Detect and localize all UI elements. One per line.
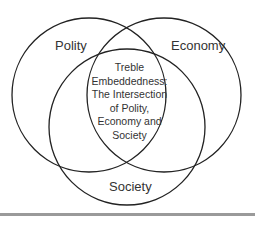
intersection-line: Economy and <box>82 115 177 129</box>
intersection-line: Society <box>82 129 177 143</box>
bottom-rule <box>0 213 255 216</box>
intersection-line: Treble <box>82 61 177 75</box>
economy-label: Economy <box>171 38 225 53</box>
polity-label: Polity <box>55 38 87 53</box>
intersection-label: Treble Embeddedness: The Intersection of… <box>82 61 177 142</box>
intersection-line: The Intersection <box>82 88 177 102</box>
intersection-line: Embeddedness: <box>82 75 177 89</box>
society-label: Society <box>109 179 152 194</box>
intersection-line: of Polity, <box>82 102 177 116</box>
